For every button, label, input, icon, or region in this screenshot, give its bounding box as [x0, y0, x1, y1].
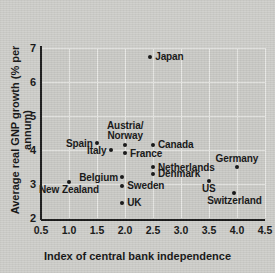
gridline-horizontal	[41, 48, 265, 49]
data-point-label: US	[202, 184, 216, 194]
data-point	[207, 179, 211, 183]
gridline-vertical	[237, 48, 238, 218]
x-axis-tick-labels: 0.51.01.52.02.53.03.54.04.5	[0, 224, 275, 238]
y-axis-line	[40, 46, 42, 220]
data-point-label: Denmark	[158, 169, 200, 179]
x-tick-label: 0.5	[34, 224, 49, 236]
data-point	[120, 201, 124, 205]
x-tick-label: 2.5	[146, 224, 161, 236]
data-point-label: Sweden	[127, 181, 164, 191]
data-point	[151, 172, 155, 176]
data-point-label: UK	[127, 198, 141, 208]
gridline-horizontal	[41, 82, 265, 83]
x-tick-label: 1.0	[62, 224, 77, 236]
gridline-vertical	[265, 48, 266, 218]
data-point	[148, 55, 152, 59]
data-point-label: Germany	[216, 154, 259, 164]
data-point	[109, 148, 113, 152]
scatter-chart-figure: JapanSpainAustria/NorwayCanadaItalyFranc…	[0, 0, 275, 273]
data-point-label: Canada	[158, 140, 194, 150]
data-point	[120, 184, 124, 188]
data-point	[232, 191, 236, 195]
data-point	[151, 165, 155, 169]
gridline-horizontal	[41, 116, 265, 117]
data-point	[151, 143, 155, 147]
y-axis-title: Average real GNP growth (% per annum)	[9, 35, 33, 225]
data-point-label: France	[130, 149, 162, 159]
x-axis-title: Index of central bank independence	[0, 250, 275, 262]
gridline-vertical	[181, 48, 182, 218]
data-point-label: Switzerland	[207, 196, 261, 206]
data-point	[123, 143, 127, 147]
x-tick-label: 1.5	[90, 224, 105, 236]
data-point-label: Austria/Norway	[107, 121, 143, 142]
data-point-label: Japan	[155, 52, 183, 62]
x-tick-label: 3.5	[202, 224, 217, 236]
data-point-label: New Zealand	[39, 185, 99, 195]
data-point	[123, 151, 127, 155]
x-tick-label: 4.5	[258, 224, 273, 236]
x-tick-label: 2.0	[118, 224, 133, 236]
plot-area: JapanSpainAustria/NorwayCanadaItalyFranc…	[41, 48, 265, 218]
x-axis-line	[41, 219, 265, 221]
data-point-label: Belgium	[79, 173, 118, 183]
x-tick-label: 3.0	[174, 224, 189, 236]
x-tick-label: 4.0	[230, 224, 245, 236]
data-point	[235, 165, 239, 169]
data-point	[120, 175, 124, 179]
data-point-label: Italy	[87, 146, 107, 156]
gridline-vertical	[153, 48, 154, 218]
